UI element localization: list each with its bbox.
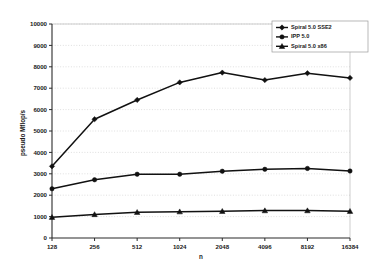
x-tick-label: 8192 bbox=[301, 243, 315, 250]
legend-label: Spiral 5.0 SSE2 bbox=[291, 24, 332, 30]
data-series bbox=[49, 70, 353, 220]
y-tick-label: 5000 bbox=[33, 127, 47, 134]
marker-circle bbox=[305, 166, 309, 170]
y-tick-label: 10000 bbox=[30, 20, 48, 27]
marker-circle bbox=[135, 172, 139, 176]
marker-circle bbox=[50, 187, 54, 191]
marker-diamond bbox=[347, 75, 352, 80]
x-axis-ticks: 128256512102420484096819216384 bbox=[47, 238, 359, 250]
marker-diamond bbox=[262, 77, 267, 82]
marker-circle bbox=[280, 35, 284, 39]
x-tick-label: 1024 bbox=[173, 243, 187, 250]
chart-container: 0100020003000400050006000700080009000100… bbox=[0, 0, 374, 265]
series-1 bbox=[50, 166, 352, 191]
x-axis-label: n bbox=[199, 253, 203, 260]
x-tick-label: 512 bbox=[132, 243, 143, 250]
y-tick-label: 8000 bbox=[33, 63, 47, 70]
y-tick-label: 7000 bbox=[33, 84, 47, 91]
series-2 bbox=[49, 208, 353, 220]
x-tick-label: 4096 bbox=[258, 243, 272, 250]
legend-label: IPP 5.0 bbox=[291, 33, 309, 39]
marker-circle bbox=[92, 178, 96, 182]
y-axis-ticks: 0100020003000400050006000700080009000100… bbox=[30, 20, 52, 241]
marker-diamond bbox=[177, 80, 182, 85]
line-chart: 0100020003000400050006000700080009000100… bbox=[0, 0, 374, 265]
marker-diamond bbox=[220, 70, 225, 75]
gridlines bbox=[52, 24, 350, 217]
marker-circle bbox=[263, 167, 267, 171]
x-tick-label: 128 bbox=[47, 243, 58, 250]
marker-diamond bbox=[305, 71, 310, 76]
series-0 bbox=[49, 70, 352, 169]
chart-legend: Spiral 5.0 SSE2IPP 5.0Spiral 5.0 x86 bbox=[272, 21, 368, 52]
y-tick-label: 1000 bbox=[33, 213, 47, 220]
x-tick-label: 256 bbox=[89, 243, 100, 250]
x-tick-label: 2048 bbox=[216, 243, 230, 250]
marker-circle bbox=[348, 169, 352, 173]
y-tick-label: 6000 bbox=[33, 106, 47, 113]
marker-circle bbox=[178, 172, 182, 176]
y-tick-label: 9000 bbox=[33, 42, 47, 49]
y-tick-label: 2000 bbox=[33, 191, 47, 198]
legend-label: Spiral 5.0 x86 bbox=[291, 43, 327, 49]
x-tick-label: 16384 bbox=[342, 243, 360, 250]
marker-diamond bbox=[135, 97, 140, 102]
marker-circle bbox=[220, 169, 224, 173]
y-tick-label: 0 bbox=[44, 234, 48, 241]
y-tick-label: 3000 bbox=[33, 170, 47, 177]
y-axis-label: pseudo Mflop/s bbox=[19, 109, 27, 156]
y-tick-label: 4000 bbox=[33, 149, 47, 156]
